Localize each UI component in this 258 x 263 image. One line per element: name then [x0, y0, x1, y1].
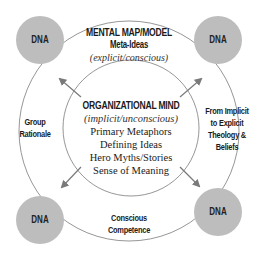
inner-circle-title: ORGANIZATIONAL MIND: [80, 99, 181, 111]
inner-item-sense-of-meaning: Sense of Meaning: [66, 165, 196, 176]
right-label-line-4: Beliefs: [201, 141, 252, 152]
right-label-line-2: to Explicit: [201, 117, 252, 128]
left-label-line-1: Group: [16, 116, 55, 127]
bottom-label-line-1: Conscious: [98, 212, 160, 223]
dna-label-top-right: DNA: [199, 34, 237, 45]
outer-circle-note: (explicit/conscious): [74, 52, 184, 63]
inner-circle-note: (implicit/unconscious): [66, 113, 196, 124]
right-label-line-3: Theology &: [201, 129, 252, 140]
dna-label-bottom-left: DNA: [21, 214, 59, 225]
inner-item-primary-metaphors: Primary Metaphors: [66, 126, 196, 137]
dna-label-top-left: DNA: [21, 34, 59, 45]
inner-item-hero-myths: Hero Myths/Stories: [66, 152, 196, 163]
outer-circle-subtitle: Meta-Ideas: [98, 39, 160, 50]
right-label-line-1: From Implicit: [201, 105, 252, 116]
outer-circle-title: MENTAL MAP/MODEL: [82, 26, 176, 38]
left-label-line-2: Rationale: [16, 128, 55, 139]
inner-item-defining-ideas: Defining Ideas: [66, 139, 196, 150]
dna-label-bottom-right: DNA: [199, 206, 237, 217]
bottom-label-line-2: Competence: [98, 224, 160, 235]
organizational-mind-diagram: DNA DNA DNA DNA MENTAL MAP/MODEL Meta-Id…: [0, 0, 258, 263]
